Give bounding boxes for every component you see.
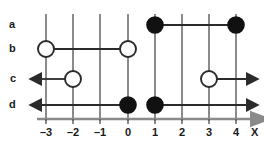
row-b-graph — [38, 41, 136, 57]
x-tick-label-1: 1 — [144, 127, 166, 138]
x-axis-label: X — [251, 127, 258, 138]
plot-canvas — [0, 0, 264, 144]
row-a-closed-dot-4 — [228, 17, 244, 33]
row-label-d: d — [9, 99, 16, 110]
row-c-open-dot-3 — [201, 71, 217, 87]
row-label-c: c — [10, 73, 16, 84]
x-tick-label-4: 4 — [225, 127, 247, 138]
row-label-b: b — [9, 43, 16, 54]
x-tick-label-minus2: –2 — [62, 127, 84, 138]
row-a-graph — [147, 17, 244, 33]
number-line-figure: a b c d –3 –2 –1 0 1 2 3 4 X — [0, 0, 264, 144]
x-tick-label-2: 2 — [171, 127, 193, 138]
row-d-closed-dot-0 — [120, 97, 136, 113]
row-a-closed-dot-1 — [147, 17, 163, 33]
x-tick-label-minus3: –3 — [35, 127, 57, 138]
row-label-a: a — [9, 19, 15, 30]
row-b-open-dot-minus3 — [38, 41, 54, 57]
row-d-closed-dot-1 — [147, 97, 163, 113]
row-c-open-dot-minus2 — [65, 71, 81, 87]
row-b-open-dot-0 — [120, 41, 136, 57]
x-tick-label-0: 0 — [117, 127, 139, 138]
row-c-graph — [42, 71, 246, 87]
x-tick-label-minus1: –1 — [89, 127, 111, 138]
x-tick-label-3: 3 — [198, 127, 220, 138]
